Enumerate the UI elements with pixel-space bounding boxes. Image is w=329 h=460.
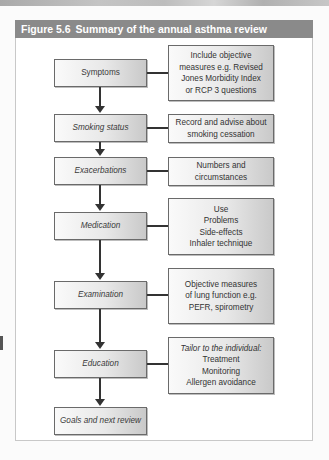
detail-line: Use [214,204,229,216]
arrow-down-icon [95,399,105,406]
page-top-border [0,0,329,6]
arrow-down-icon [95,149,105,156]
detail-line: Jones Morbidity Index [181,73,261,85]
connector-symptoms [147,72,168,74]
step-smoking-status: Smoking status [54,114,147,142]
detail-line: Side-effects [199,227,242,239]
detail-line: circumstances [195,172,247,184]
arrow-down-icon [95,106,105,113]
detail-line: of lung function e.g. [185,290,256,302]
step-medication: Medication [54,212,147,240]
step-label: Examination [78,289,123,301]
step-examination: Examination [54,281,147,309]
detail-line: Include objective [191,50,252,62]
step-label: Symptoms [81,67,120,79]
step-label: Education [82,358,118,370]
step-symptoms: Symptoms [54,59,147,87]
step-label: Smoking status [73,122,129,134]
arrow-line [99,185,101,205]
detail-line: Objective measures [185,279,257,291]
figure-number: Figure 5.6 [21,23,71,35]
arrow-down-icon [95,204,105,211]
connector-examination [147,294,168,296]
detail-symptoms: Include objective measures e.g. Revised … [168,45,274,101]
arrow-down-icon [95,273,105,280]
detail-education: Tailor to the individual: Treatment Moni… [168,337,274,394]
detail-heading: Tailor to the individual: [180,343,261,355]
step-label: Goals and next review [60,415,141,427]
arrow-line [99,378,101,400]
detail-line: Inhaler technique [190,238,253,250]
detail-line: Numbers and [196,160,245,172]
step-exacerbations: Exacerbations [54,157,147,185]
detail-exacerbations: Numbers and circumstances [168,157,274,186]
page-side-marker [0,336,3,350]
detail-line: Allergen avoidance [186,377,256,389]
arrow-down-icon [95,342,105,349]
step-label: Exacerbations [75,165,127,177]
arrow-line [99,309,101,343]
step-education: Education [54,350,147,378]
arrow-line [99,240,101,274]
figure-title: Summary of the annual asthma review [76,23,267,35]
step-label: Medication [81,220,121,232]
figure-header: Figure 5.6Summary of the annual asthma r… [15,20,313,38]
connector-exacerbations [147,170,168,172]
detail-examination: Objective measures of lung function e.g.… [168,268,274,324]
step-goals-next-review: Goals and next review [54,407,147,435]
detail-smoking-status: Record and advise about smoking cessatio… [168,114,274,143]
detail-medication: Use Problems Side-effects Inhaler techni… [168,198,274,255]
detail-line: measures e.g. Revised [179,62,263,74]
detail-line: PEFR, spirometry [189,302,254,314]
connector-medication [147,225,168,227]
connector-education [147,363,168,365]
detail-line: or RCP 3 questions [186,85,257,97]
detail-line: smoking cessation [187,129,254,141]
detail-line: Record and advise about [175,117,266,129]
detail-line: Treatment [202,354,239,366]
detail-line: Problems [204,215,239,227]
arrow-line [99,87,101,107]
detail-line: Monitoring [202,366,240,378]
connector-smoking [147,127,168,129]
